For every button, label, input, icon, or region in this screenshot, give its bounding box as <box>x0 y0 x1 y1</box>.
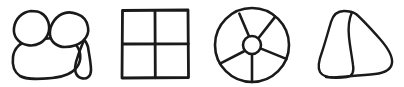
drawing-canvas: Blob figure with circular head, rounded … <box>0 0 404 87</box>
hub-circle <box>243 36 261 54</box>
shapes-svg <box>0 0 404 87</box>
head-circle <box>14 11 49 45</box>
